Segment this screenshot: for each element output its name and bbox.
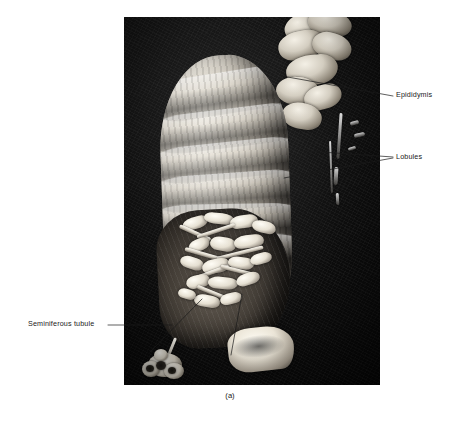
label-seminiferous-tubule: Seminiferous tubule: [28, 319, 94, 328]
figure-caption: (a): [225, 391, 234, 400]
figure-caption-row: (a): [0, 391, 460, 400]
photo-vignette: [124, 17, 380, 385]
photograph-plate: [124, 17, 380, 385]
label-lobules: Lobules: [396, 152, 422, 161]
figure-page: Epididymis Lobules Seminiferous tubule (…: [0, 0, 460, 422]
label-epididymis: Epididymis: [396, 90, 432, 99]
